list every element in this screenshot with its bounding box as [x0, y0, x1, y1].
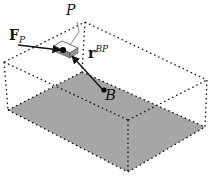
label-F_P: FP: [9, 28, 25, 42]
label-B: B: [105, 88, 116, 103]
label-r-sup: BP: [95, 44, 108, 54]
p-label-leader: [70, 22, 79, 45]
force-arrow-F_P: [18, 45, 60, 50]
label-F-sub: P: [19, 35, 25, 45]
label-F-main: F: [9, 27, 19, 43]
label-r_BP: rBP: [88, 46, 108, 60]
label-P: P: [66, 3, 75, 17]
particle-point-P: [60, 47, 66, 53]
